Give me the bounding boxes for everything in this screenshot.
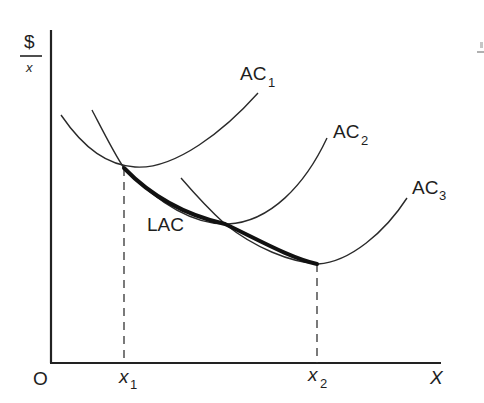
svg-text:1: 1 [130, 377, 137, 392]
long-run-average-cost-diagram: $ x O X x 1 x 2 [0, 0, 484, 403]
origin-label: O [33, 368, 48, 389]
y-axis-label-dollar: $ [24, 31, 35, 52]
svg-text:x: x [307, 364, 319, 385]
svg-text:2: 2 [361, 133, 368, 148]
x-axis-label: X [429, 367, 444, 388]
tick-label-x1: x 1 [118, 366, 137, 392]
svg-text:x: x [118, 366, 130, 387]
cropped-neighbor-label-fragment [477, 42, 484, 52]
svg-text:2: 2 [320, 376, 327, 391]
ac2-curve [92, 110, 327, 224]
svg-text:1: 1 [268, 75, 275, 90]
ac3-label: AC 3 [412, 177, 446, 203]
ac2-label: AC 2 [333, 121, 368, 148]
svg-text:AC: AC [333, 121, 359, 142]
lac-label: LAC [147, 214, 184, 235]
svg-text:AC: AC [240, 63, 266, 84]
svg-text:3: 3 [439, 188, 446, 203]
y-axis-label: $ x [20, 31, 42, 75]
ac1-curve [61, 93, 258, 167]
y-axis-label-x: x [25, 60, 33, 75]
ac1-label: AC 1 [240, 63, 275, 90]
svg-text:AC: AC [412, 177, 438, 198]
tick-label-x2: x 2 [307, 364, 327, 391]
